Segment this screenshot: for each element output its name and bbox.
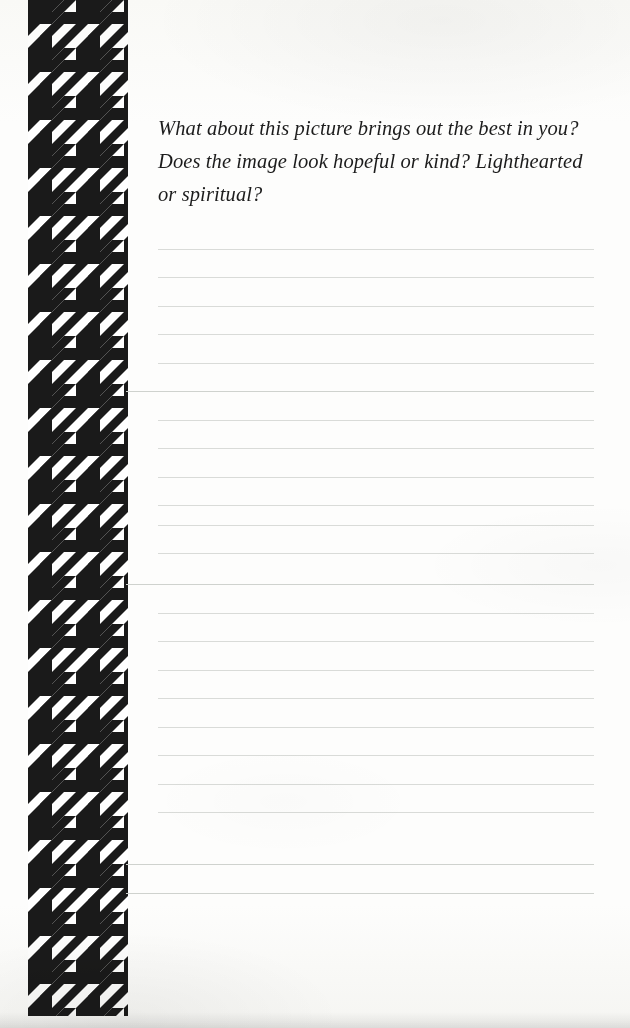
writing-line xyxy=(158,306,594,307)
writing-line xyxy=(158,670,594,671)
houndstooth-border xyxy=(28,0,128,1016)
writing-line xyxy=(158,477,594,478)
writing-line xyxy=(158,525,594,526)
writing-line xyxy=(158,505,594,506)
writing-line xyxy=(158,448,594,449)
writing-line xyxy=(158,420,594,421)
journal-page: What about this picture brings out the b… xyxy=(0,0,630,1028)
writing-line xyxy=(158,641,594,642)
writing-line xyxy=(158,812,594,813)
writing-line xyxy=(126,864,594,865)
writing-line xyxy=(158,613,594,614)
writing-line xyxy=(126,584,594,585)
prompt-text: What about this picture brings out the b… xyxy=(158,112,598,211)
writing-line xyxy=(158,363,594,364)
writing-line xyxy=(158,553,594,554)
writing-line xyxy=(158,249,594,250)
writing-line xyxy=(126,893,594,894)
writing-line xyxy=(126,391,594,392)
journal-prompt: What about this picture brings out the b… xyxy=(158,112,598,211)
houndstooth-fill xyxy=(28,0,128,1016)
writing-line xyxy=(158,334,594,335)
houndstooth-pattern-svg xyxy=(28,0,128,1016)
writing-line xyxy=(158,755,594,756)
writing-line xyxy=(158,784,594,785)
writing-line xyxy=(158,727,594,728)
writing-line xyxy=(158,277,594,278)
writing-line xyxy=(158,698,594,699)
